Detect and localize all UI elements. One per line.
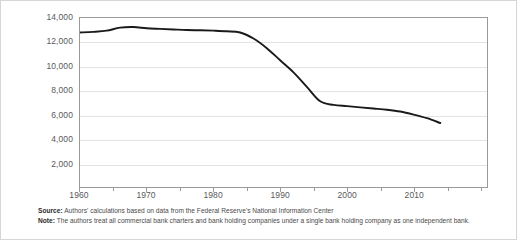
x-axis-tick-label: 2000 bbox=[338, 191, 357, 200]
x-axis-tick-mark bbox=[381, 188, 382, 191]
x-axis-tick-mark bbox=[113, 188, 114, 191]
x-axis-tick-label: 1960 bbox=[69, 191, 88, 200]
figure-container: 14,00012,00010,0008,0006,0004,0002,000 1… bbox=[0, 0, 517, 240]
source-note: Source: Authors' calculations based on d… bbox=[38, 206, 508, 216]
method-note-label: Note: bbox=[38, 217, 55, 224]
x-axis-tick-mark bbox=[314, 188, 315, 191]
x-axis-tick-label: 2010 bbox=[405, 191, 424, 200]
method-note-text: The authors treat all commercial bank ch… bbox=[55, 217, 470, 224]
source-note-label: Source: bbox=[38, 207, 63, 214]
x-axis-tick-mark bbox=[448, 188, 449, 191]
x-axis-tick-mark bbox=[481, 188, 482, 191]
x-axis-tick-label: 1970 bbox=[136, 191, 155, 200]
x-axis-label-group: 196019701980199020002010 bbox=[1, 1, 517, 240]
x-axis-tick-label: 1990 bbox=[270, 191, 289, 200]
x-axis-tick-mark bbox=[180, 188, 181, 191]
method-note: Note: The authors treat all commercial b… bbox=[38, 216, 508, 226]
x-axis-tick-mark bbox=[247, 188, 248, 191]
x-axis-tick-label: 1980 bbox=[203, 191, 222, 200]
notes-block: Source: Authors' calculations based on d… bbox=[38, 206, 508, 226]
source-note-text: Authors' calculations based on data from… bbox=[63, 207, 334, 214]
